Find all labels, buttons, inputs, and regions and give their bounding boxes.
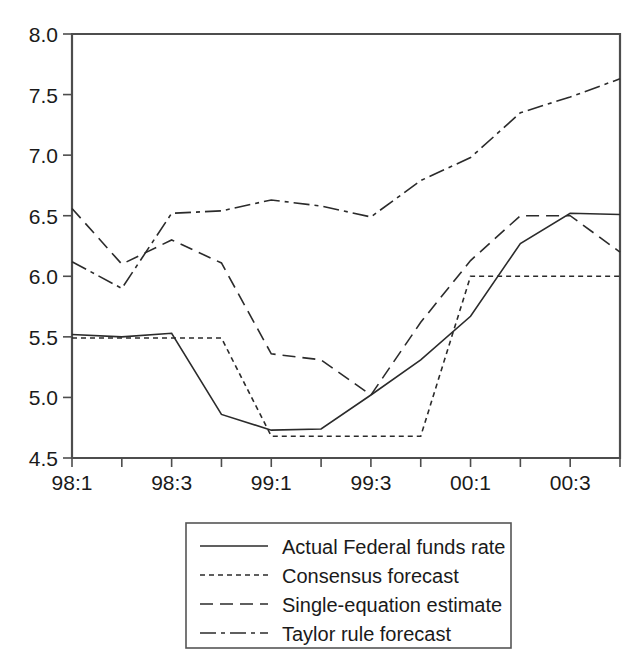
line-chart: 4.55.05.56.06.57.07.58.0 98:198:399:199:… [0, 0, 643, 661]
x-tick-label: 00:3 [550, 471, 591, 494]
x-tick-label: 98:3 [151, 471, 192, 494]
y-tick-label: 5.5 [29, 326, 58, 349]
x-tick-label: 00:1 [450, 471, 491, 494]
legend-label-1: Consensus forecast [282, 565, 459, 587]
y-tick-label: 5.0 [29, 386, 58, 409]
x-tick-label: 98:1 [52, 471, 93, 494]
data-series-group [72, 79, 620, 436]
y-axis-ticks [63, 34, 72, 458]
series-line-2 [72, 208, 620, 395]
x-axis-tick-labels: 98:198:399:199:300:100:3 [52, 471, 591, 494]
plot-axes [72, 34, 620, 458]
y-axis-tick-labels: 4.55.05.56.06.57.07.58.0 [29, 23, 58, 470]
y-tick-label: 7.0 [29, 144, 58, 167]
y-tick-label: 6.0 [29, 265, 58, 288]
y-tick-label: 4.5 [29, 447, 58, 470]
legend-label-0: Actual Federal funds rate [282, 536, 505, 558]
axis-frame [72, 34, 620, 458]
series-line-0 [72, 213, 620, 430]
legend-items: Actual Federal funds rateConsensus forec… [200, 536, 505, 645]
legend-label-3: Taylor rule forecast [282, 623, 451, 645]
legend-label-2: Single-equation estimate [282, 594, 502, 616]
x-axis-ticks [72, 458, 620, 467]
y-tick-label: 8.0 [29, 23, 58, 46]
y-tick-label: 7.5 [29, 84, 58, 107]
chart-figure: 4.55.05.56.06.57.07.58.0 98:198:399:199:… [0, 0, 643, 661]
series-line-3 [72, 79, 620, 289]
y-tick-label: 6.5 [29, 205, 58, 228]
chart-legend: Actual Federal funds rateConsensus forec… [186, 523, 511, 648]
x-tick-label: 99:3 [350, 471, 391, 494]
x-tick-label: 99:1 [251, 471, 292, 494]
